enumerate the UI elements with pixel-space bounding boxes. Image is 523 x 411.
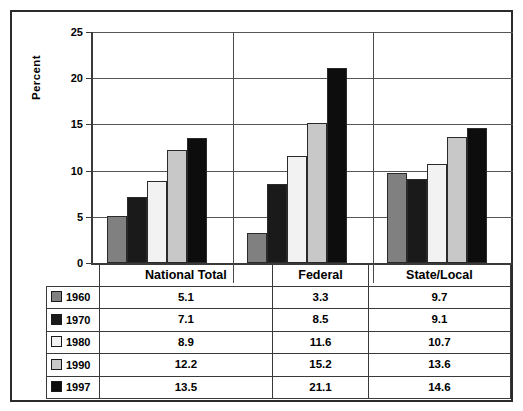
y-axis-title: Percent [30, 55, 42, 100]
bar-group-federal [233, 32, 373, 263]
legend-label-1997: 1997 [66, 382, 90, 393]
bar-1970-national-total[interactable] [127, 197, 147, 263]
cell-1990-national-total: 12.2 [99, 354, 273, 377]
legend-swatch-1997-icon [51, 381, 62, 392]
chart-frame: Percent 0510152025 National TotalFederal… [10, 10, 513, 402]
cell-1990-federal: 15.2 [273, 354, 369, 377]
legend-label-1970: 1970 [66, 315, 90, 326]
y-tick-label-10: 10 [57, 166, 83, 177]
bar-1997-state-local[interactable] [467, 128, 487, 263]
legend-swatch-1990-icon [51, 359, 62, 370]
cell-1997-state-local: 14.6 [368, 376, 510, 399]
bar-1960-state-local[interactable] [387, 173, 407, 263]
y-axis-tick-labels: 0510152025 [53, 32, 83, 263]
column-header-federal: Federal [273, 264, 369, 287]
cell-1960-federal: 3.3 [273, 286, 369, 309]
bar-1970-federal[interactable] [267, 184, 287, 263]
table-row: 19808.911.610.7 [47, 331, 511, 354]
cell-1970-state-local: 9.1 [368, 309, 510, 332]
table-row: 199012.215.213.6 [47, 354, 511, 377]
y-tick-5 [86, 217, 93, 218]
plot-area [91, 32, 511, 263]
bar-1980-state-local[interactable] [427, 164, 447, 263]
cell-1980-state-local: 10.7 [368, 331, 510, 354]
column-header-national-total: National Total [99, 264, 273, 287]
bar-1997-national-total[interactable] [187, 138, 207, 263]
legend-row-1970[interactable]: 1970 [47, 309, 100, 332]
y-tick-label-25: 25 [57, 27, 83, 38]
bar-1960-federal[interactable] [247, 233, 267, 263]
bar-1990-state-local[interactable] [447, 137, 467, 263]
bar-group-state-local [373, 32, 513, 263]
legend-label-1980: 1980 [66, 337, 90, 348]
legend-row-1997[interactable]: 1997 [47, 376, 100, 399]
legend-row-1960[interactable]: 1960 [47, 286, 100, 309]
cell-1990-state-local: 13.6 [368, 354, 510, 377]
cell-1970-national-total: 7.1 [99, 309, 273, 332]
cell-1960-state-local: 9.7 [368, 286, 510, 309]
column-header-state-local: State/Local [368, 264, 510, 287]
y-tick-20 [86, 78, 93, 79]
cell-1980-federal: 11.6 [273, 331, 369, 354]
y-tick-25 [86, 32, 93, 33]
legend-label-1960: 1960 [66, 292, 90, 303]
table-header-row: National TotalFederalState/Local [47, 264, 511, 287]
bar-1990-federal[interactable] [307, 123, 327, 263]
table-corner-cell [47, 264, 100, 287]
cell-1970-federal: 8.5 [273, 309, 369, 332]
legend-row-1980[interactable]: 1980 [47, 331, 100, 354]
table-row: 199713.521.114.6 [47, 376, 511, 399]
bar-1960-national-total[interactable] [107, 216, 127, 263]
table-row: 19605.13.39.7 [47, 286, 511, 309]
data-table: National TotalFederalState/Local19605.13… [46, 263, 511, 399]
cell-1980-national-total: 8.9 [99, 331, 273, 354]
legend-row-1990[interactable]: 1990 [47, 354, 100, 377]
legend-swatch-1960-icon [51, 291, 62, 302]
bar-1990-national-total[interactable] [167, 150, 187, 263]
legend-swatch-1970-icon [51, 314, 62, 325]
y-tick-15 [86, 124, 93, 125]
y-tick-label-5: 5 [57, 212, 83, 223]
bar-1980-federal[interactable] [287, 156, 307, 263]
legend-swatch-1980-icon [51, 336, 62, 347]
cell-1960-national-total: 5.1 [99, 286, 273, 309]
bar-1997-federal[interactable] [327, 68, 347, 263]
y-tick-label-20: 20 [57, 73, 83, 84]
bar-group-national-total [93, 32, 233, 263]
legend-label-1990: 1990 [66, 360, 90, 371]
y-tick-10 [86, 171, 93, 172]
bar-1980-national-total[interactable] [147, 181, 167, 263]
y-tick-label-15: 15 [57, 119, 83, 130]
plot-canvas [91, 32, 513, 265]
cell-1997-federal: 21.1 [273, 376, 369, 399]
data-table-body: National TotalFederalState/Local19605.13… [47, 264, 511, 399]
table-row: 19707.18.59.1 [47, 309, 511, 332]
bar-1970-state-local[interactable] [407, 179, 427, 263]
cell-1997-national-total: 13.5 [99, 376, 273, 399]
